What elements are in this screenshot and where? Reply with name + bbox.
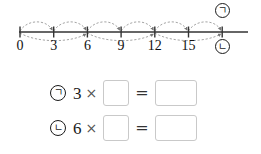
equation-tag: ㄱ <box>50 85 66 101</box>
axis-tick-label: 15 <box>174 38 204 54</box>
equation-factor: 6 <box>73 120 82 137</box>
axis-tick-label: 12 <box>140 38 170 54</box>
circled-marker-bottom: ㄴ <box>215 39 230 54</box>
result-input-box[interactable] <box>155 80 197 106</box>
multiplication-sign-icon: × <box>86 86 98 100</box>
jump-arcs-top <box>20 22 221 31</box>
axis-tick-label: 3 <box>39 38 69 54</box>
operand-input-box[interactable] <box>103 80 129 106</box>
circled-marker-top: ㄱ <box>215 3 230 18</box>
equation-tag: ㄴ <box>50 120 66 136</box>
operand-input-box[interactable] <box>103 115 129 141</box>
equals-sign: = <box>135 85 148 101</box>
axis-tick-label: 0 <box>5 38 35 54</box>
axis-tick-label: 9 <box>106 38 136 54</box>
equation-row: ㄴ 6 × = <box>50 113 197 143</box>
axis-tick-label: 6 <box>72 38 102 54</box>
equation-row: ㄱ 3 × = <box>50 78 197 108</box>
multiplication-sign-icon: × <box>86 121 98 135</box>
result-input-box[interactable] <box>155 115 197 141</box>
equations-block: ㄱ 3 × = ㄴ 6 × = <box>0 72 261 154</box>
equals-sign: = <box>135 120 148 136</box>
number-line-block: 03691215 ㄱ ㄴ <box>0 0 261 62</box>
equation-factor: 3 <box>73 85 82 102</box>
